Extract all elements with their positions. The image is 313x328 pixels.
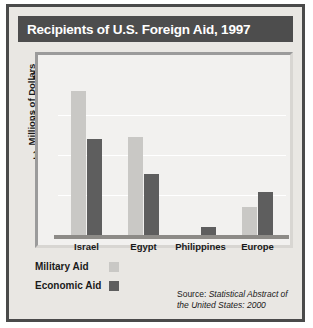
legend-label-economic: Economic Aid <box>35 280 109 291</box>
x-axis-label-israel: Israel <box>74 241 99 252</box>
legend-label-military: Military Aid <box>35 261 109 272</box>
bar-economic-europe <box>258 192 273 235</box>
bar-military-israel <box>71 91 86 235</box>
legend-item-military: Military Aid <box>35 259 119 274</box>
bar-group-egypt <box>128 75 159 235</box>
x-axis-label-egypt: Egypt <box>130 241 156 252</box>
bar-military-europe <box>242 207 257 235</box>
x-axis-line <box>54 235 289 239</box>
page-title: Recipients of U.S. Foreign Aid, 1997 <box>27 22 250 37</box>
bar-group-israel <box>71 75 102 235</box>
bar-group-europe <box>242 75 273 235</box>
x-axis-label-europe: Europe <box>241 241 274 252</box>
x-axis-label-philippines: Philippines <box>175 241 226 252</box>
legend-swatch-economic <box>109 281 119 291</box>
bar-group-philippines <box>185 75 216 235</box>
legend-swatch-military <box>109 262 119 272</box>
figure-frame: Recipients of U.S. Foreign Aid, 1997 050… <box>6 4 305 322</box>
legend: Military Aid Economic Aid <box>35 259 119 297</box>
plot-area: IsraelEgyptPhilippinesEurope <box>58 75 286 235</box>
bar-economic-israel <box>87 139 102 235</box>
source-prefix: Source: <box>177 289 209 299</box>
chart-title-bar: Recipients of U.S. Foreign Aid, 1997 <box>18 16 293 42</box>
bar-military-egypt <box>128 137 143 235</box>
legend-item-economic: Economic Aid <box>35 278 119 293</box>
bar-economic-philippines <box>201 227 216 235</box>
source-note: Source: Statistical Abstract of the Unit… <box>177 289 299 312</box>
bar-economic-egypt <box>144 174 159 235</box>
